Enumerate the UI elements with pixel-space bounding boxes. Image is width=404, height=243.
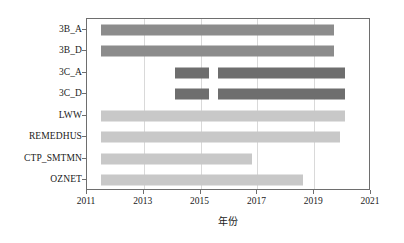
bar-segment: [101, 24, 334, 35]
x-axis-tick: [256, 190, 257, 194]
bar-row: [87, 62, 369, 84]
bar-segment: [218, 67, 346, 78]
bar-row: [87, 19, 369, 41]
bar-segment: [101, 46, 334, 57]
y-axis-label-3c_a: 3C_A: [0, 67, 82, 77]
bar-row: [87, 41, 369, 63]
y-axis-label-lww: LWW: [0, 110, 82, 120]
x-axis-title: 年份: [86, 213, 370, 228]
x-axis-tick: [143, 190, 144, 194]
bar-segment: [101, 153, 252, 164]
bar-segment: [101, 175, 303, 186]
y-axis-label-oznet: OZNET: [0, 174, 82, 184]
x-axis-label-2019: 2019: [291, 196, 335, 207]
bar-row: [87, 127, 369, 149]
bar-row: [87, 105, 369, 127]
bar-row: [87, 170, 369, 192]
bar-row: [87, 148, 369, 170]
x-axis-label-2015: 2015: [178, 196, 222, 207]
gantt-timeline-chart: 3B_A3B_D3C_A3C_DLWWREMEDHUSCTP_SMTMNOZNE…: [0, 0, 404, 243]
x-axis-label-2011: 2011: [64, 196, 108, 207]
plot-area: [86, 18, 370, 190]
bar-segment: [101, 110, 345, 121]
x-axis-label-2017: 2017: [234, 196, 278, 207]
bar-segment: [218, 89, 346, 100]
x-axis-tick: [86, 190, 87, 194]
bar-row: [87, 84, 369, 106]
bar-segment: [101, 132, 340, 143]
y-axis-label-3b_d: 3B_D: [0, 45, 82, 55]
y-axis-label-remedhus: REMEDHUS: [0, 131, 82, 141]
x-axis-tick: [370, 190, 371, 194]
x-axis-tick: [313, 190, 314, 194]
y-axis-label-3b_a: 3B_A: [0, 24, 82, 34]
x-axis-label-2021: 2021: [348, 196, 392, 207]
x-axis-label-2013: 2013: [121, 196, 165, 207]
bar-segment: [175, 67, 209, 78]
x-axis-tick: [200, 190, 201, 194]
y-axis-label-3c_d: 3C_D: [0, 88, 82, 98]
bar-segment: [175, 89, 209, 100]
y-axis: 3B_A3B_D3C_A3C_DLWWREMEDHUSCTP_SMTMNOZNE…: [0, 18, 82, 190]
y-axis-label-ctp_smtmn: CTP_SMTMN: [0, 153, 82, 163]
